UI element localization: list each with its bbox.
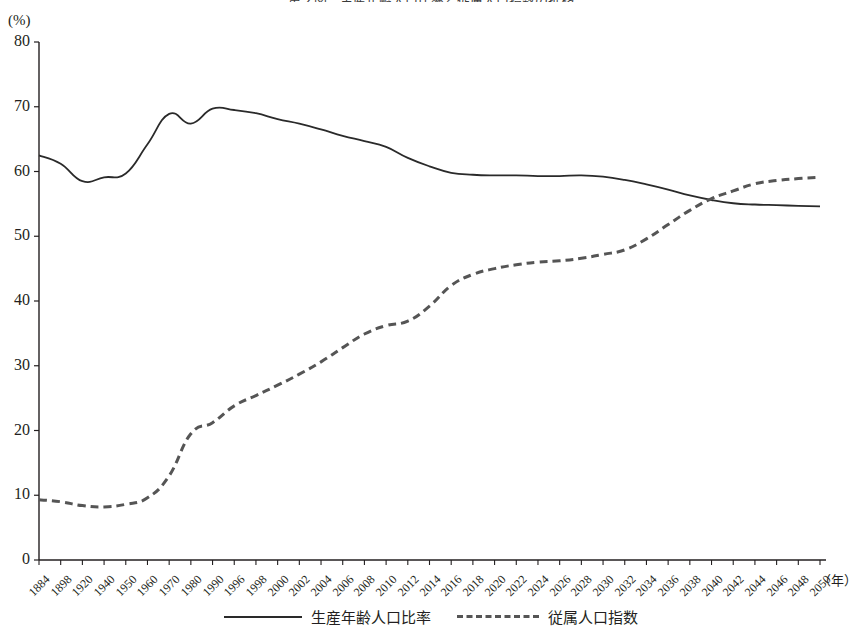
legend-swatch-dashed-line (457, 615, 539, 618)
chart-legend: 生産年齢人口比率 従属人口指数 (0, 606, 862, 627)
legend-label-working-age-ratio: 生産年齢人口比率 (311, 606, 431, 627)
legend-swatch-solid-line (224, 616, 302, 618)
legend-item-working-age-ratio: 生産年齢人口比率 (224, 606, 431, 627)
legend-label-dependency-index: 従属人口指数 (548, 606, 638, 627)
chart-figure: 第２図 生産年齢人口比率と従属人口指数の推移 (%) 0102030405060… (0, 0, 862, 633)
legend-item-dependency-index: 従属人口指数 (457, 606, 638, 627)
x-axis-labels: 1884189819201940195019601970198019901996… (0, 0, 862, 633)
x-axis-unit-label: （年） (818, 570, 857, 589)
